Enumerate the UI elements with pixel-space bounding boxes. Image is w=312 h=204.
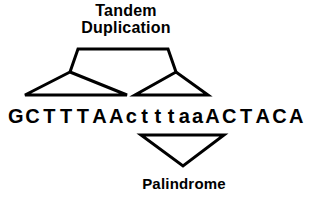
sequence-base: C xyxy=(272,103,288,129)
left-repeat-bracket xyxy=(25,72,127,95)
sequence-base: C xyxy=(25,103,41,129)
palindrome-bracket xyxy=(141,135,224,166)
sequence-base: A xyxy=(92,103,108,129)
sequence-base: T xyxy=(75,103,91,129)
sequence-base: a xyxy=(192,103,204,129)
sequence-base: C xyxy=(222,103,238,129)
tandem-duplication-palindrome-figure: Tandem Duplication G C T T T A A c t t t… xyxy=(0,0,312,204)
sequence-base: t xyxy=(165,103,177,129)
sequence-base: A xyxy=(289,103,305,129)
sequence-base: G xyxy=(8,103,24,129)
sequence-base: A xyxy=(255,103,271,129)
sequence-base: A xyxy=(205,103,221,129)
sequence-base: T xyxy=(42,103,58,129)
sequence-base: c xyxy=(125,103,137,129)
sequence-base: t xyxy=(139,103,151,129)
sequence-base: T xyxy=(58,103,74,129)
sequence-base: t xyxy=(152,103,164,129)
palindrome-label: Palindrome xyxy=(84,176,284,192)
bracket-diagram xyxy=(0,0,312,204)
right-repeat-bracket xyxy=(135,72,208,95)
tandem-duplication-top-bracket xyxy=(70,49,176,72)
sequence-base: a xyxy=(178,103,190,129)
dna-sequence: G C T T T A A c t t t a a A C T A C A xyxy=(8,103,304,129)
sequence-base: A xyxy=(109,103,125,129)
sequence-base: T xyxy=(238,103,254,129)
